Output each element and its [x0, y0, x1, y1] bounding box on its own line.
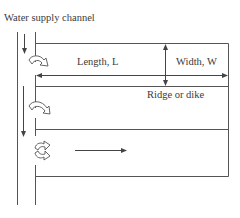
turnout-arrow-3a-icon: [35, 141, 50, 150]
width-label: Width, W: [176, 57, 217, 68]
length-label: Length, L: [77, 57, 118, 68]
turnout-arrow-3b-icon: [35, 151, 50, 160]
ridge-label: Ridge or dike: [147, 90, 204, 101]
basin-irrigation-diagram: [0, 0, 240, 218]
turnout-arrow-2-icon: [29, 102, 50, 114]
supply-channel-label: Water supply channel: [4, 13, 95, 24]
turnout-arrow-1-icon: [29, 56, 48, 66]
